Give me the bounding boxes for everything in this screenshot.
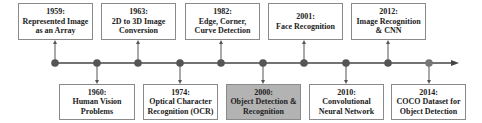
event-text: Object Detection & [230,97,296,107]
event-text: & CNN [376,26,402,36]
timeline-dot [217,59,225,67]
event-box-1982: 1982: Edge, Corner, Curve Detection [185,3,260,40]
event-box-2000-highlighted: 2000: Object Detection & Recognition [226,84,301,120]
event-text: Recognition (OCR) [148,107,214,117]
event-text: Curve Detection [195,26,251,36]
event-box-2010: 2010: Convolutional Neural Network [309,84,384,120]
event-box-2001: 2001: Face Recognition [268,3,343,40]
event-year: 1959: [46,7,65,17]
event-text: Problems [81,107,113,117]
event-text: 2D to 3D Image [112,17,166,27]
event-year: 1982: [213,7,232,17]
event-text: COCO Dataset for [397,97,461,107]
timeline-dot [425,59,433,67]
event-text: Represented Image [23,17,89,27]
timeline-dot [342,59,350,67]
timeline-dot [259,59,267,67]
event-text: Convolutional [322,97,370,107]
timeline-dot [384,59,392,67]
timeline-dot [51,59,59,67]
event-box-1960: 1960: Human Vision Problems [59,84,135,120]
event-box-2014: 2014: COCO Dataset for Object Detection [391,84,466,120]
event-text: Neural Network [319,107,374,117]
timeline-dot [134,59,142,67]
event-year: 2010: [337,88,356,98]
event-year: 1974: [171,88,190,98]
event-text: Image Recognition [356,17,420,27]
event-text: Face Recognition [276,22,335,32]
event-text: Object Detection [400,107,458,117]
timeline-dot [176,59,184,67]
event-box-1963: 1963: 2D to 3D Image Conversion [101,3,176,40]
event-year: 2000: [254,88,273,98]
event-box-1959: 1959: Represented Image as an Array [18,3,93,40]
arrow-head-icon [451,60,459,66]
event-year: 2012: [379,7,398,17]
event-year: 1963: [129,7,148,17]
timeline-dot [300,59,308,67]
event-year: 2001: [296,12,315,22]
timeline-dot [93,59,101,67]
event-text: Recognition [243,107,284,117]
event-box-2012: 2012: Image Recognition & CNN [351,3,426,40]
event-text: Optical Character [149,97,211,107]
event-year: 2014: [419,88,438,98]
timeline-diagram: 1959: Represented Image as an Array 1963… [0,0,482,123]
event-text: Human Vision [72,97,121,107]
event-year: 1960: [88,88,107,98]
event-text: Conversion [119,26,158,36]
event-text: as an Array [36,26,76,36]
event-text: Edge, Corner, [199,17,246,27]
event-box-1974: 1974: Optical Character Recognition (OCR… [143,84,218,120]
